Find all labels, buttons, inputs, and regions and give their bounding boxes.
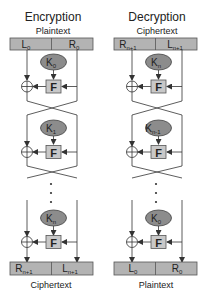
decryption-title: Decryption — [128, 10, 185, 24]
encryption-ellipsis — [50, 183, 52, 203]
decryption-xor-icon-1 — [127, 81, 138, 92]
encryption-panel: Encryption Plaintext L0 R0 K0 F — [10, 10, 93, 290]
decryption-xor-icon-2 — [127, 147, 138, 158]
encryption-f-label-n: F — [50, 237, 57, 249]
decryption-f-label-final: F — [155, 237, 162, 249]
decryption-input-block: Rn+1 Ln+1 — [114, 38, 197, 51]
decryption-panel: Decryption Ciphertext Rn+1 Ln+1 Kn F — [114, 10, 197, 290]
encryption-f-label-1: F — [50, 81, 57, 93]
encryption-round-n — [27, 200, 77, 262]
decryption-output-block: L0 R0 — [114, 262, 197, 275]
encryption-title: Encryption — [25, 10, 82, 24]
encryption-input-block: L0 R0 — [10, 38, 93, 51]
encryption-output-label: Ciphertext — [30, 280, 72, 290]
decryption-xor-icon-final — [127, 237, 138, 248]
encryption-xor-icon-n — [22, 237, 33, 248]
encryption-output-block: Rn+1 Ln+1 — [10, 262, 93, 275]
encryption-xor-icon-2 — [22, 147, 33, 158]
decryption-output-label: Plaintext — [139, 280, 174, 290]
encryption-input-label: Plaintext — [36, 26, 71, 36]
decryption-round-final — [132, 200, 182, 262]
decryption-f-label-1: F — [155, 81, 162, 93]
feistel-diagram: Encryption Plaintext L0 R0 K0 F — [0, 0, 209, 297]
encryption-f-label-2: F — [50, 147, 57, 159]
encryption-xor-icon-1 — [22, 81, 33, 92]
decryption-f-label-2: F — [155, 147, 162, 159]
decryption-input-label: Ciphertext — [136, 26, 178, 36]
decryption-ellipsis — [155, 183, 157, 203]
